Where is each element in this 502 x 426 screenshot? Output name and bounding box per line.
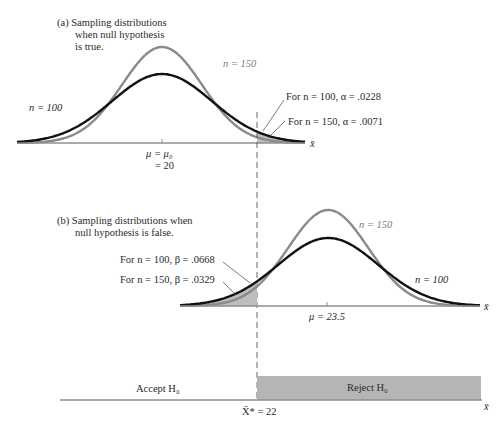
panel-a-mu-value: = 20 [155, 160, 174, 171]
beta-150-annotation: For n = 150, β = .0329 [120, 274, 215, 285]
alpha-150-leader [268, 121, 285, 138]
panel-b-caption: (b) Sampling distributions when null hyp… [57, 215, 193, 238]
decision-axis-label: x̄ [483, 401, 489, 412]
caption-b-line-2: null hypothesis is false. [75, 227, 174, 238]
alpha-150-annotation: For n = 150, α = .0071 [288, 116, 383, 127]
panel-b-plot [180, 210, 480, 306]
alpha-100-leader [263, 100, 284, 131]
panel-b-n100-label: n = 100 [415, 274, 449, 285]
panel-a-n100-label: n = 100 [29, 102, 63, 113]
panel-a-axis-label: x̄ [309, 138, 315, 149]
caption-a-line-1: (a) Sampling distributions [57, 17, 167, 29]
figure: (a) Sampling distributions when null hyp… [0, 0, 502, 426]
panel-b-axis-label: x̄ [483, 301, 489, 312]
reject-label: Reject H₀ [347, 382, 388, 393]
panel-a-n150-label: n = 150 [223, 58, 257, 69]
alpha-100-annotation: For n = 100, α = .0228 [286, 91, 381, 102]
beta-100-annotation: For n = 100, β = .0668 [120, 254, 215, 265]
accept-label: Accept H₀ [136, 383, 180, 394]
caption-b-line-1: (b) Sampling distributions when [57, 215, 193, 227]
panel-b-curve-n150 [180, 210, 480, 306]
caption-a-line-2: when null hypothesis [75, 29, 164, 40]
beta-150-leader [223, 282, 236, 295]
panel-a-plot [17, 47, 305, 143]
caption-a-line-3: is true. [75, 41, 104, 52]
beta-100-leader [223, 262, 250, 283]
panel-a-curve-n150 [17, 47, 305, 143]
panel-a-mu-label: μ = μ₀ [145, 148, 173, 159]
cutoff-label: X̄* = 22 [242, 406, 277, 417]
panel-a-caption: (a) Sampling distributions when null hyp… [57, 17, 167, 52]
panel-b-mu-label: μ = 23.5 [308, 311, 345, 322]
panel-b-n150-label: n = 150 [359, 219, 393, 230]
panel-b-curve-n100 [180, 238, 480, 305]
